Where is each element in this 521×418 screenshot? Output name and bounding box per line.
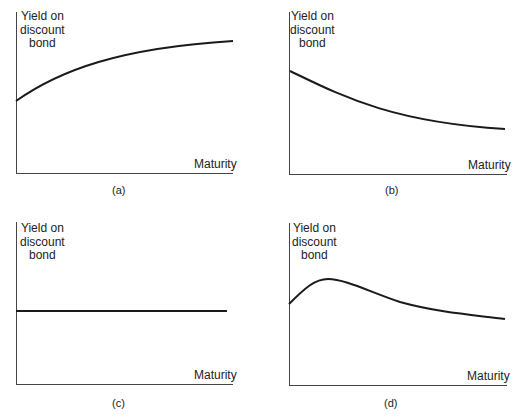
panel-d-y-axis-label: Yield on discount bond <box>292 222 337 263</box>
yield-curves-figure <box>0 0 521 418</box>
panel-a-caption: (a) <box>112 184 125 197</box>
panel-c-x-axis-label: Maturity <box>194 368 237 382</box>
panel-c-caption: (c) <box>112 397 125 410</box>
panel-b-caption: (b) <box>385 184 398 197</box>
panel-d-caption: (d) <box>384 397 397 410</box>
panel-a-y-axis-label: Yield on discount bond <box>20 10 65 51</box>
panel-d-curve <box>289 279 505 319</box>
panel-a-x-axis-label: Maturity <box>194 157 237 171</box>
panel-c-y-axis-label: Yield on discount bond <box>20 222 65 263</box>
panel-b-y-axis-label: Yield on discount bond <box>290 10 335 51</box>
panel-d-x-axis-label: Maturity <box>467 369 510 383</box>
panel-b-x-axis-label: Maturity <box>468 158 511 172</box>
panel-b-curve <box>290 71 505 129</box>
